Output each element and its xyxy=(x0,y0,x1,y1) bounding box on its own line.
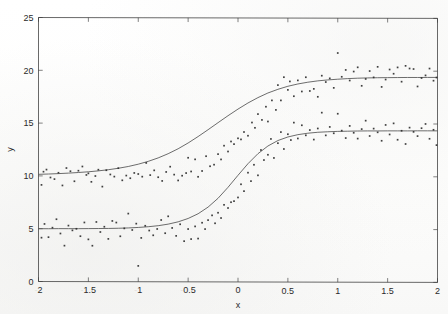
x-tick-label: 1.5 xyxy=(381,286,394,296)
x-tick-label: -1.5 xyxy=(81,285,97,295)
data-point xyxy=(425,123,427,125)
data-point xyxy=(273,157,275,159)
data-point xyxy=(369,70,371,72)
data-point xyxy=(201,170,203,172)
points-lower-observations xyxy=(41,112,438,267)
data-point xyxy=(373,128,375,130)
data-point xyxy=(129,177,131,179)
data-point xyxy=(153,170,155,172)
data-point xyxy=(179,223,181,225)
data-point xyxy=(397,139,399,141)
data-point xyxy=(187,157,189,159)
data-point xyxy=(117,167,119,169)
data-point xyxy=(421,127,423,129)
data-point xyxy=(217,153,219,155)
data-point xyxy=(267,121,269,123)
x-tick-label: 0.5 xyxy=(282,286,295,296)
data-point xyxy=(44,223,46,225)
data-point xyxy=(43,171,45,173)
data-point xyxy=(251,122,253,124)
data-point xyxy=(333,132,335,134)
data-point xyxy=(48,236,50,238)
data-point xyxy=(175,235,177,237)
data-point xyxy=(152,234,154,236)
data-point xyxy=(72,230,74,232)
data-point xyxy=(405,143,407,145)
data-point xyxy=(313,88,315,90)
data-point xyxy=(148,230,150,232)
data-point xyxy=(265,106,267,108)
y-tick-label: 10 xyxy=(23,171,33,181)
data-point xyxy=(211,215,213,217)
data-point xyxy=(261,119,263,121)
y-axis-title: y xyxy=(5,147,15,152)
data-point xyxy=(109,174,111,176)
data-point xyxy=(140,237,142,239)
data-point xyxy=(429,68,431,70)
data-point xyxy=(283,76,285,78)
data-point xyxy=(214,222,216,224)
data-point xyxy=(194,226,196,228)
data-point xyxy=(280,131,282,133)
data-point xyxy=(333,87,335,89)
data-point xyxy=(297,138,299,140)
data-point xyxy=(349,80,351,82)
data-point xyxy=(361,85,363,87)
data-point xyxy=(121,179,123,181)
data-point xyxy=(301,124,303,126)
data-point xyxy=(240,139,242,141)
data-point xyxy=(133,172,135,174)
data-point xyxy=(217,212,219,214)
data-point xyxy=(100,231,102,233)
data-point xyxy=(309,129,311,131)
data-point xyxy=(243,131,245,133)
data-point xyxy=(205,155,207,157)
data-point xyxy=(401,81,403,83)
data-point xyxy=(283,148,285,150)
data-point xyxy=(101,186,103,188)
data-point xyxy=(60,233,62,235)
data-point xyxy=(46,169,48,171)
data-point xyxy=(54,178,56,180)
x-tick-label: -2 xyxy=(34,285,42,295)
data-point xyxy=(111,220,113,222)
data-point xyxy=(107,238,109,240)
data-point xyxy=(227,207,229,209)
data-point xyxy=(171,227,173,229)
data-point xyxy=(149,174,151,176)
data-point xyxy=(280,100,282,102)
y-tick-label: 5 xyxy=(28,224,33,234)
data-point xyxy=(167,215,169,217)
data-point xyxy=(223,145,225,147)
data-point xyxy=(88,239,90,241)
data-point xyxy=(389,69,391,71)
figure-root: -2-1.5-1-0.500.511.520510152025xy xyxy=(0,0,448,314)
data-point xyxy=(257,174,259,176)
data-point xyxy=(260,149,262,151)
data-point xyxy=(353,132,355,134)
data-point xyxy=(207,219,209,221)
data-point xyxy=(76,228,78,230)
data-point xyxy=(157,176,159,178)
data-point xyxy=(141,176,143,178)
data-point xyxy=(82,166,84,168)
data-point xyxy=(361,128,363,130)
data-point xyxy=(433,80,435,82)
data-point xyxy=(321,75,323,77)
data-point xyxy=(84,222,86,224)
data-point xyxy=(277,84,279,86)
data-point xyxy=(381,86,383,88)
data-point xyxy=(233,200,235,202)
data-point xyxy=(131,229,133,231)
data-point xyxy=(409,127,411,129)
data-point xyxy=(220,159,222,161)
data-point xyxy=(254,127,256,129)
data-point xyxy=(160,219,162,221)
data-point xyxy=(227,151,229,153)
data-point xyxy=(271,100,273,102)
data-point xyxy=(325,81,327,83)
data-point xyxy=(181,175,183,177)
data-point xyxy=(127,213,129,215)
data-point xyxy=(357,66,359,68)
data-point xyxy=(41,237,43,239)
